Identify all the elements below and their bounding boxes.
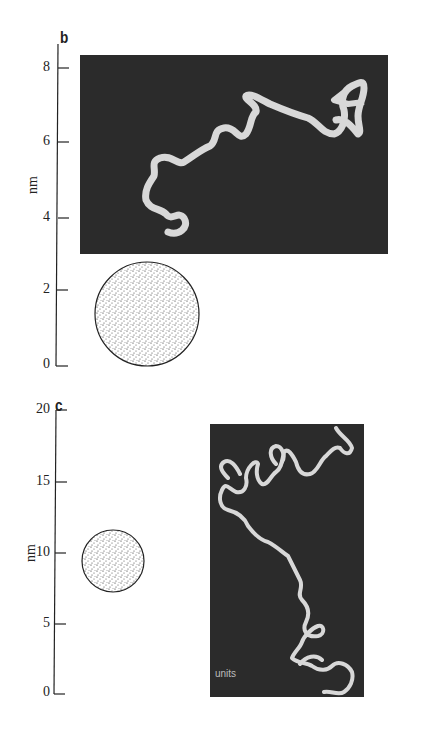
panel-c-image-caption: units	[215, 668, 236, 679]
figure-graphics	[0, 0, 439, 733]
panel-c-axis	[54, 410, 67, 694]
panel-b-chain-image	[80, 55, 388, 254]
panel-b-sphere	[95, 262, 199, 366]
panel-c-sphere	[82, 530, 144, 592]
panel-c-chain-image	[210, 424, 364, 697]
panel-b-axis	[56, 44, 69, 366]
